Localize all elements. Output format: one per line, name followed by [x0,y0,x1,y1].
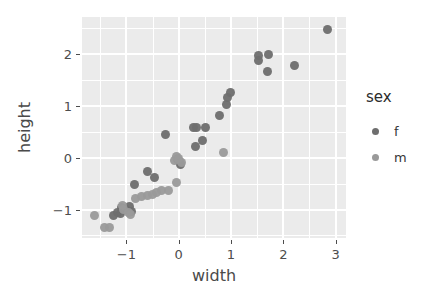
legend-title: sex [366,88,432,106]
y-tick-label: 0 [34,152,72,165]
x-axis-title: width [82,266,346,285]
gridline-minor-vertical [153,17,154,238]
gridline-major-horizontal [82,105,346,107]
legend: sex fm [366,88,432,170]
data-point [226,88,235,97]
y-tick-label: −1 [34,204,72,217]
gridline-minor-horizontal [82,184,346,185]
data-point [323,25,332,34]
gridline-major-vertical [230,17,232,238]
legend-entry[interactable]: f [366,118,432,144]
gridline-major-vertical [178,17,180,238]
gridline-major-horizontal [82,53,346,55]
scatter-plot-figure: −10123−1012 width height sex fm [0,0,434,294]
gridline-minor-horizontal [82,235,346,236]
legend-dot-icon [372,128,379,135]
x-tick-label: 2 [263,248,303,261]
data-point [130,180,139,189]
x-tick-label: 3 [316,248,356,261]
legend-dot-icon [372,154,379,161]
data-point [191,142,200,151]
data-point [164,186,173,195]
legend-key-swatch [366,148,384,166]
legend-key-swatch [366,122,384,140]
gridline-major-vertical [282,17,284,238]
legend-entry[interactable]: m [366,144,432,170]
legend-label: f [394,124,399,139]
y-tick-mark [76,54,80,55]
gridline-minor-horizontal [82,28,346,29]
x-tick-label: −1 [106,248,146,261]
data-point [290,61,299,70]
x-tick-label: 0 [159,248,199,261]
gridline-minor-horizontal [82,132,346,133]
data-point [219,148,228,157]
data-point [109,211,118,220]
legend-label: m [394,150,407,165]
data-point [263,67,272,76]
legend-entries: fm [366,118,432,170]
data-point [201,123,210,132]
y-tick-mark [76,106,80,107]
plot-panel [82,17,346,238]
y-tick-mark [76,158,80,159]
data-point [172,178,181,187]
x-tick-mark [283,240,284,244]
gridline-minor-vertical [100,17,101,238]
gridline-minor-vertical [309,17,310,238]
x-tick-mark [126,240,127,244]
y-tick-label: 2 [34,48,72,61]
data-point [192,123,201,132]
gridline-minor-horizontal [82,80,346,81]
x-tick-mark [179,240,180,244]
x-tick-label: 1 [211,248,251,261]
data-point [161,130,170,139]
data-point [254,56,263,65]
gridline-major-horizontal [82,157,346,159]
data-point [150,173,159,182]
data-point [215,111,224,120]
data-point [264,50,273,59]
y-tick-label: 1 [34,100,72,113]
x-tick-mark [231,240,232,244]
data-point [105,223,114,232]
data-point [126,210,135,219]
y-axis-title: height [15,78,34,178]
data-point [90,211,99,220]
x-tick-mark [336,240,337,244]
y-tick-mark [76,210,80,211]
gridline-major-vertical [335,17,337,238]
